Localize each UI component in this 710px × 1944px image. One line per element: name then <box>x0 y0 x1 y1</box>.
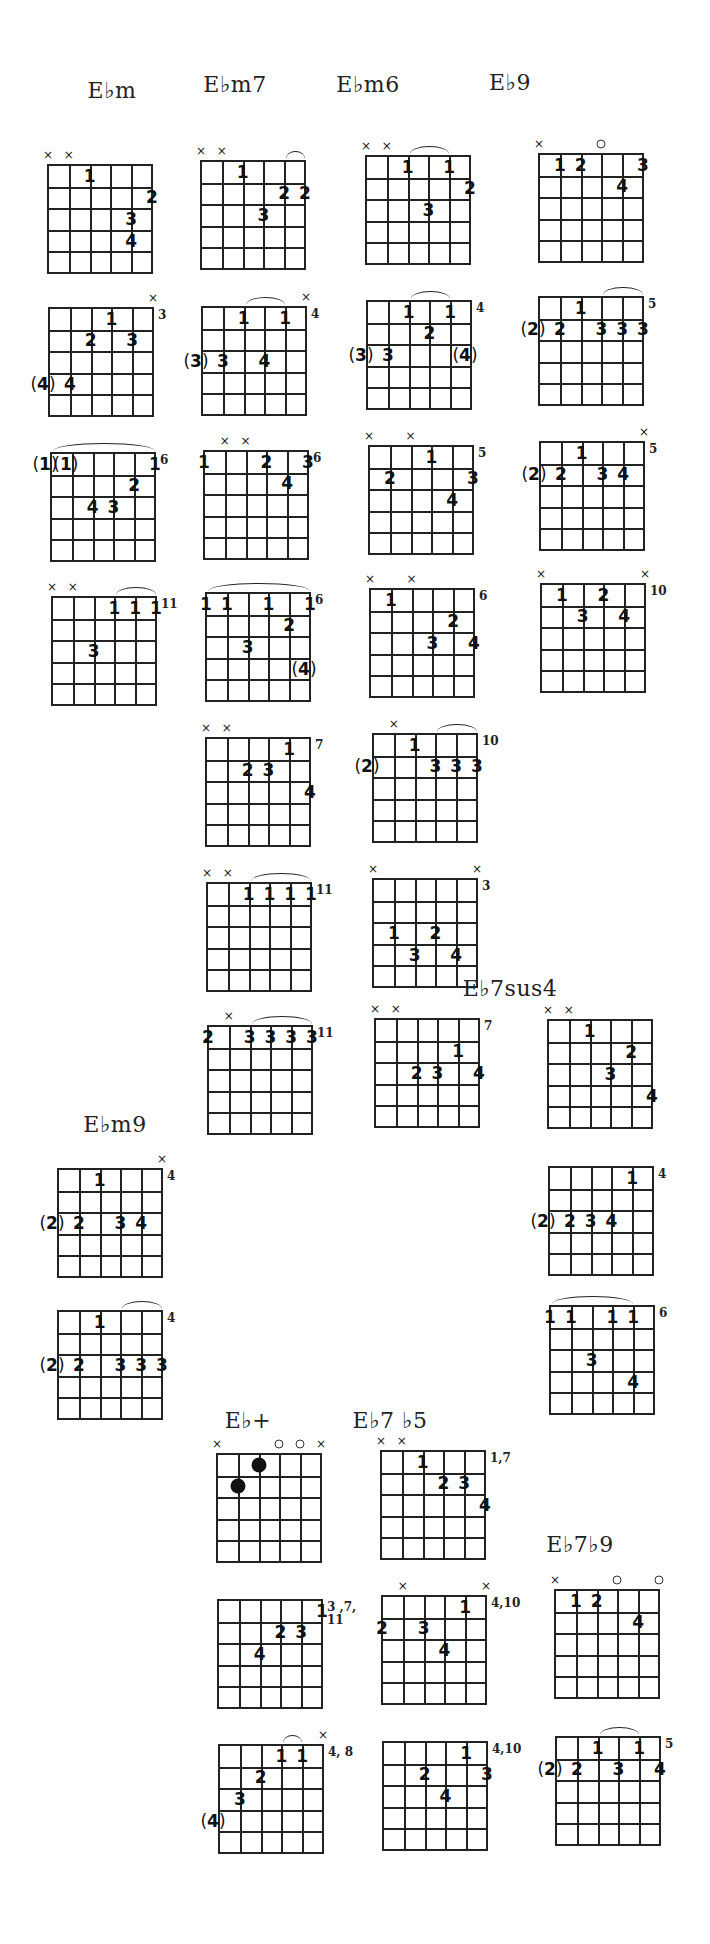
fret-line <box>549 1085 651 1087</box>
muted-string-icon: × <box>564 1004 574 1016</box>
finger-number: 2 <box>418 1766 432 1783</box>
fret-line <box>382 1494 484 1496</box>
finger-number: 1 <box>197 453 211 470</box>
muted-string-icon: × <box>217 145 227 157</box>
string-line <box>73 598 75 704</box>
fret-line <box>374 799 476 801</box>
string-line <box>248 739 250 845</box>
string-line <box>132 309 134 415</box>
muted-string-icon: × <box>536 568 546 580</box>
finger-number: 3 <box>233 1791 247 1808</box>
string-line <box>424 1597 426 1703</box>
string-line <box>602 443 604 549</box>
barre-arc <box>246 297 286 305</box>
fret-line <box>557 1802 659 1804</box>
string-line <box>425 1743 427 1849</box>
finger-number: 1 <box>282 740 296 757</box>
string-line <box>569 1021 571 1127</box>
string-line <box>560 298 562 404</box>
finger-number: 3 <box>113 1357 127 1374</box>
finger-number: 1 <box>387 925 401 942</box>
fret-line <box>52 539 154 541</box>
finger-number: 2 <box>354 758 379 775</box>
muted-string-icon: × <box>640 568 650 580</box>
fret-position-label: 4 <box>311 308 319 321</box>
fret-line <box>383 1639 485 1641</box>
fret-line <box>52 518 154 520</box>
fret-line <box>209 1048 311 1050</box>
finger-number: 3 <box>603 1066 617 1083</box>
fret-line <box>540 197 642 199</box>
finger-number: 1 <box>553 156 567 173</box>
fret-line <box>207 760 309 762</box>
string-line <box>238 1455 240 1561</box>
fret-line <box>205 537 307 539</box>
finger-number: 1 <box>262 885 276 902</box>
fret-line <box>542 649 644 651</box>
fret-line <box>374 901 476 903</box>
finger-number: 1 <box>199 595 213 612</box>
fret-line <box>208 926 310 928</box>
fret-line <box>53 683 155 685</box>
string-line <box>69 166 71 272</box>
finger-number: 2 <box>537 1761 562 1778</box>
fret-line <box>540 340 642 342</box>
fret-position-label: 7 <box>484 1020 492 1033</box>
finger-number: 1 <box>451 1043 465 1060</box>
finger-number: 3 <box>466 470 480 487</box>
fret-position-label: 6 <box>313 452 321 465</box>
fret-line <box>550 1232 652 1234</box>
muted-string-icon: × <box>201 722 211 734</box>
fret-line <box>203 393 305 395</box>
string-line <box>403 1597 405 1703</box>
finger-number: 1 <box>53 455 78 472</box>
barre-arc <box>411 291 451 299</box>
fret-line <box>551 1349 653 1351</box>
string-line <box>617 1591 619 1697</box>
string-line <box>601 155 603 261</box>
string-line <box>387 157 389 263</box>
muted-string-icon: × <box>368 863 378 875</box>
finger-number: 1 <box>237 309 251 326</box>
fret-line <box>207 824 309 826</box>
finger-number: 1 <box>625 1169 639 1186</box>
finger-number: 3 <box>261 762 275 779</box>
muted-string-icon: × <box>212 1438 222 1450</box>
muted-string-icon: × <box>64 149 74 161</box>
string-line <box>443 1452 445 1558</box>
fret-line <box>59 1255 161 1257</box>
finger-number: 3 <box>183 353 208 370</box>
string-line <box>456 880 458 986</box>
finger-number: 1 <box>424 448 438 465</box>
fret-position-label: 5 <box>478 447 486 460</box>
finger-number: 4 <box>86 499 100 516</box>
string-line <box>458 1020 460 1126</box>
finger-number: 2 <box>574 156 588 173</box>
finger-number: 3 <box>381 347 395 364</box>
fret-line <box>208 905 310 907</box>
fret-line <box>556 1633 658 1635</box>
fret-line <box>219 1686 321 1688</box>
fret-line <box>367 178 469 180</box>
finger-number: 1 <box>83 167 97 184</box>
finger-number: 3 <box>585 1352 599 1369</box>
finger-number: 2 <box>39 1357 64 1374</box>
fret-position-label: 1,7 <box>490 1452 511 1465</box>
chord-title-eb9: E♭9 <box>450 70 570 95</box>
muted-string-icon: × <box>397 1435 407 1447</box>
fret-line <box>370 511 472 513</box>
finger-number: 3 <box>417 1620 431 1637</box>
muted-string-icon: × <box>370 1003 380 1015</box>
fret-line <box>556 1655 658 1657</box>
muted-string-icon: × <box>543 1004 553 1016</box>
finger-number: 4 <box>200 1812 225 1829</box>
fret-line <box>367 221 469 223</box>
finger-number: 1 <box>242 885 256 902</box>
finger-number: 4 <box>253 1646 267 1663</box>
fret-line <box>207 781 309 783</box>
barre-arc <box>53 443 155 451</box>
fretboard-grid <box>200 160 306 270</box>
finger-number: 2 <box>553 321 567 338</box>
fret-line <box>383 1661 485 1663</box>
fret-line <box>49 187 151 189</box>
